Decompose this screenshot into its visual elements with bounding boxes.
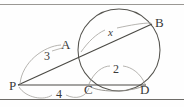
main-circle	[78, 9, 160, 91]
measure-arc-PC	[19, 87, 52, 98]
measure-arc-PA	[20, 45, 61, 84]
measure-label-cd: 2	[113, 63, 119, 75]
measure-label-ab: x	[108, 27, 113, 38]
bottom-chord-curve	[88, 85, 146, 91]
measure-arc-AB-left	[81, 30, 105, 52]
point-label-a: A	[61, 38, 70, 51]
point-label-b: B	[155, 16, 164, 29]
point-label-c: C	[84, 83, 93, 96]
measure-label-pa: 3	[44, 50, 50, 62]
point-label-p: P	[9, 79, 16, 92]
measure-label-pc: 4	[56, 88, 62, 100]
geometry-figure: A B P C D 3 4 2 x	[0, 0, 184, 107]
point-label-d: D	[140, 83, 149, 96]
